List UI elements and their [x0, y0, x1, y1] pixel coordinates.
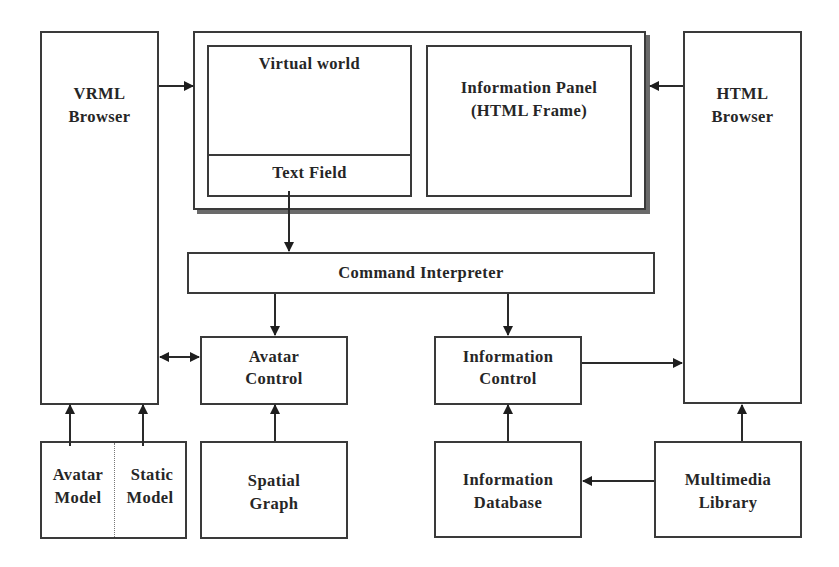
connectors — [0, 0, 839, 567]
